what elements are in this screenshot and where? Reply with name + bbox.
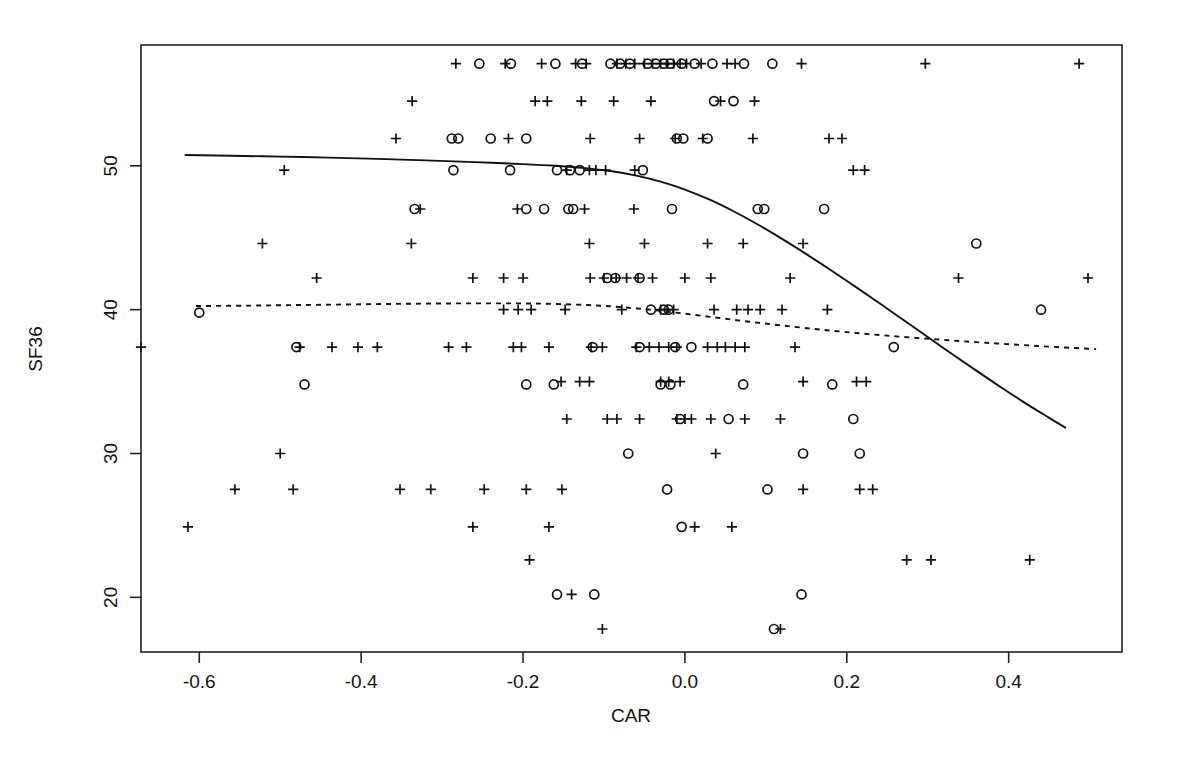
data-point-circle [972, 239, 981, 248]
data-point-plus [861, 376, 871, 386]
data-point-plus [576, 96, 586, 106]
data-point-plus [544, 342, 554, 352]
data-point-plus [730, 342, 740, 352]
data-point-plus [851, 376, 861, 386]
data-point-plus [798, 376, 808, 386]
data-point-plus [837, 133, 847, 143]
data-point-plus [597, 624, 607, 634]
data-point-circle [551, 59, 560, 68]
data-point-plus [720, 342, 730, 352]
data-point-plus [544, 522, 554, 532]
data-point-plus [526, 305, 536, 315]
data-point-plus [622, 273, 632, 283]
data-point-plus [634, 414, 644, 424]
data-point-circle [760, 204, 769, 213]
y-axis-ticks [130, 166, 141, 598]
data-point-plus [868, 484, 878, 494]
data-point-plus [499, 305, 509, 315]
data-point-plus [557, 484, 567, 494]
data-point-plus [639, 238, 649, 248]
data-point-circle [549, 380, 558, 389]
data-point-plus [860, 165, 870, 175]
x-axis-tick-labels: -0.6-0.4-0.20.00.20.4 [183, 671, 1022, 692]
data-point-circle [729, 97, 738, 106]
data-point-circle [799, 449, 808, 458]
x-tick-label: 0.2 [834, 671, 860, 692]
data-point-plus [524, 555, 534, 565]
data-point-plus [426, 484, 436, 494]
data-point-plus [732, 305, 742, 315]
data-point-plus [785, 273, 795, 283]
data-point-plus [706, 273, 716, 283]
data-point-plus [275, 448, 285, 458]
data-point-plus [230, 484, 240, 494]
data-point-plus [755, 305, 765, 315]
data-point-plus [749, 96, 759, 106]
data-point-plus [1083, 273, 1093, 283]
data-point-circle [506, 166, 515, 175]
data-point-plus [711, 448, 721, 458]
y-axis-label: SF36 [25, 326, 46, 371]
scatter-plot: -0.6-0.4-0.20.00.20.4 20304050 CAR SF36 [0, 0, 1181, 767]
data-point-plus [798, 484, 808, 494]
data-point-plus [646, 96, 656, 106]
data-point-plus [407, 96, 417, 106]
data-point-plus [822, 305, 832, 315]
data-point-plus [567, 589, 577, 599]
data-point-circle [855, 449, 864, 458]
data-point-circle [708, 59, 717, 68]
data-point-plus [727, 522, 737, 532]
data-point-plus [468, 273, 478, 283]
data-point-circle [475, 59, 484, 68]
data-point-plus [327, 342, 337, 352]
data-point-plus [560, 305, 570, 315]
data-point-plus [183, 522, 193, 532]
data-point-circle [486, 134, 495, 143]
x-axis-label: CAR [611, 705, 651, 726]
data-point-plus [920, 59, 930, 69]
data-point-plus [680, 273, 690, 283]
data-point-plus [575, 376, 585, 386]
data-point-plus [461, 342, 471, 352]
data-point-plus [513, 305, 523, 315]
data-point-circle [820, 204, 829, 213]
data-point-plus [562, 414, 572, 424]
data-point-plus [675, 376, 685, 386]
data-point-plus [647, 273, 657, 283]
data-point-circle [797, 590, 806, 599]
data-point-plus [702, 342, 712, 352]
data-point-plus [1025, 555, 1035, 565]
data-point-plus [395, 484, 405, 494]
x-tick-label: 0.4 [995, 671, 1022, 692]
data-point-circle [768, 59, 777, 68]
x-tick-label: -0.2 [507, 671, 540, 692]
x-tick-label: 0.0 [672, 671, 698, 692]
data-point-plus [521, 484, 531, 494]
data-point-circle [739, 380, 748, 389]
data-point-circle [624, 449, 633, 458]
data-point-plus [798, 238, 808, 248]
y-axis-tick-labels: 20304050 [100, 155, 121, 608]
y-tick-label: 30 [100, 443, 121, 464]
x-axis-ticks [199, 652, 1008, 663]
data-point-plus [584, 376, 594, 386]
x-tick-label: -0.4 [345, 671, 378, 692]
data-point-circle [828, 380, 837, 389]
data-point-circle [522, 204, 531, 213]
data-point-plus [518, 273, 528, 283]
data-point-circle [677, 522, 686, 531]
dashed-fitted-curve [196, 303, 1096, 349]
data-point-plus [353, 342, 363, 352]
data-point-plus [902, 555, 912, 565]
data-point-plus [479, 484, 489, 494]
data-point-plus [612, 414, 622, 424]
data-point-plus [499, 273, 509, 283]
data-point-plus [585, 133, 595, 143]
data-point-plus [312, 273, 322, 283]
data-point-circle [449, 166, 458, 175]
data-point-plus [690, 522, 700, 532]
data-point-plus [740, 342, 750, 352]
data-point-plus [585, 273, 595, 283]
x-tick-label: -0.6 [183, 671, 216, 692]
data-point-plus [953, 273, 963, 283]
